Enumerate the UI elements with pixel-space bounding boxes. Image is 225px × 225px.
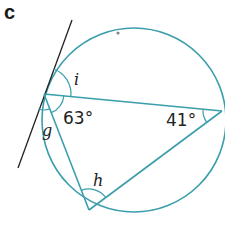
angle-arc-63 <box>51 96 64 113</box>
chord-bc <box>89 111 222 210</box>
angle-arc-g <box>39 109 50 110</box>
part-label: c <box>4 2 15 22</box>
label-angle-a: 63° <box>63 108 93 128</box>
geometry-diagram: c i 63° g 41° h <box>0 0 225 225</box>
label-angle-b: 41° <box>166 110 196 130</box>
label-g: g <box>42 121 52 140</box>
circle-mark-dot <box>116 31 119 34</box>
angle-arc-i <box>53 69 71 97</box>
label-h: h <box>93 171 103 190</box>
circle-theorem-figure: i 63° g 41° h <box>0 0 225 225</box>
angle-arc-41 <box>203 109 207 122</box>
label-i: i <box>74 70 79 89</box>
angle-arc-h <box>81 189 105 197</box>
